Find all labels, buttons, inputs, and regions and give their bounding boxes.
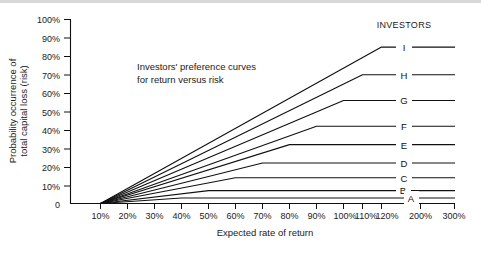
x-tick-label-50: 50% — [199, 211, 217, 221]
x-tick-label-100: 100% — [333, 211, 356, 221]
curve-label-G: G — [400, 95, 407, 106]
x-tick-label-120: 120% — [375, 211, 398, 221]
curve-end-labels: I H G F E D C B A — [396, 40, 419, 204]
annotation-line-1: Investors' preference curves — [137, 61, 256, 72]
preference-curves-chart: 100% 90% 80% 70% 60% 50% 40% 30% 20% 10%… — [0, 0, 481, 255]
y-tick-label-30: 30% — [42, 145, 60, 155]
curve-label-A: A — [408, 193, 415, 204]
x-tick-label-40: 40% — [172, 211, 190, 221]
y-tick-label-60: 60% — [42, 89, 60, 99]
curve-label-I: I — [403, 42, 406, 53]
y-tick-label-80: 80% — [42, 52, 60, 62]
curve-A — [101, 198, 456, 204]
x-tick-label-70: 70% — [253, 211, 271, 221]
chart-figure: 100% 90% 80% 70% 60% 50% 40% 30% 20% 10%… — [0, 0, 481, 255]
curve-label-C: C — [401, 173, 408, 184]
y-tick-label-10: 10% — [42, 182, 60, 192]
x-tick-label-90: 90% — [307, 211, 325, 221]
y-tick-label-40: 40% — [42, 126, 60, 136]
x-tick-label-200: 200% — [409, 211, 432, 221]
x-tick-label-110: 110% — [355, 211, 377, 221]
x-tick-label-80: 80% — [280, 211, 298, 221]
x-tick-marks — [101, 204, 455, 210]
legend-title: INVESTORS — [377, 20, 432, 30]
x-tick-label-300: 300% — [442, 211, 465, 221]
y-axis-title-line1: Probability occurrence of — [7, 58, 18, 163]
y-tick-label-90: 90% — [42, 34, 60, 44]
y-tick-label-0: 0 — [55, 200, 60, 210]
x-axis-title: Expected rate of return — [217, 227, 314, 238]
y-tick-label-50: 50% — [42, 108, 60, 118]
y-axis-title-line2: total capital loss (risk) — [18, 65, 29, 156]
annotation-line-2: for return versus risk — [137, 74, 224, 85]
curve-label-D: D — [401, 158, 408, 169]
x-tick-label-20: 20% — [118, 211, 136, 221]
y-tick-marks — [64, 20, 71, 187]
curve-label-F: F — [401, 121, 407, 132]
curve-label-E: E — [401, 140, 407, 151]
y-tick-label-70: 70% — [42, 71, 60, 81]
x-tick-label-10: 10% — [91, 211, 109, 221]
curve-label-H: H — [401, 70, 408, 81]
y-tick-label-20: 20% — [42, 163, 60, 173]
y-tick-label-100: 100% — [37, 15, 60, 25]
x-tick-label-60: 60% — [226, 211, 244, 221]
x-tick-label-30: 30% — [145, 211, 163, 221]
